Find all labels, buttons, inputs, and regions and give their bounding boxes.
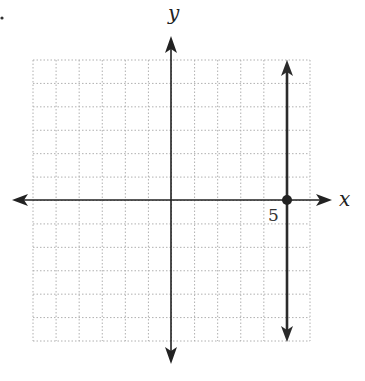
coordinate-plane: x y 5 — [0, 0, 365, 381]
x-axis-label: x — [339, 187, 350, 211]
corner-mark — [0, 16, 3, 19]
tick-label-5: 5 — [268, 205, 279, 225]
y-axis-label: y — [167, 1, 180, 25]
x-intercept-point — [282, 195, 292, 205]
